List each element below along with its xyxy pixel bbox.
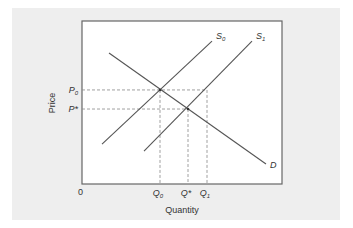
- y-axis-label: Price: [47, 93, 57, 114]
- x-tick-label-1: Q*: [181, 188, 192, 198]
- equilibrium-point-0: [159, 89, 162, 92]
- equilibrium-point-1: [187, 108, 190, 111]
- supply-demand-chart: P0P*Q0Q*Q1DS0S1 0 Quantity Price: [0, 0, 353, 228]
- y-tick-label-0: P0: [69, 85, 79, 96]
- x-tick-label-0: Q0: [153, 188, 164, 199]
- x-tick-label-2: Q1: [200, 188, 210, 199]
- y-tick-label-1: P*: [68, 104, 78, 114]
- curve-label-d: D: [270, 160, 277, 170]
- x-axis-label: Quantity: [165, 205, 199, 215]
- plot-frame: [82, 21, 282, 184]
- origin-label: 0: [78, 187, 83, 197]
